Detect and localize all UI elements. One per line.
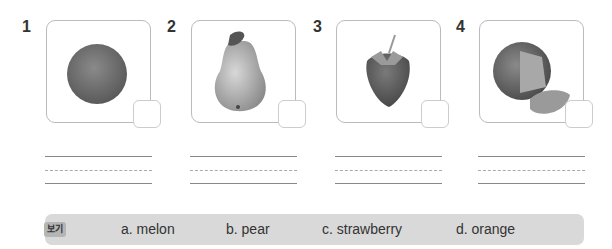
word-bank-label: 보기 <box>44 222 66 237</box>
item-number: 1 <box>22 18 31 36</box>
answer-checkbox[interactable] <box>421 100 449 128</box>
option-b: b. pear <box>226 221 270 237</box>
item-number: 2 <box>167 18 176 36</box>
answer-checkbox[interactable] <box>565 100 593 128</box>
item-number: 4 <box>456 18 465 36</box>
answer-checkbox[interactable] <box>133 100 161 128</box>
option-d: d. orange <box>456 221 515 237</box>
item-number: 3 <box>313 18 322 36</box>
option-a: a. melon <box>121 221 175 237</box>
option-c: c. strawberry <box>322 221 402 237</box>
answer-checkbox[interactable] <box>278 100 306 128</box>
